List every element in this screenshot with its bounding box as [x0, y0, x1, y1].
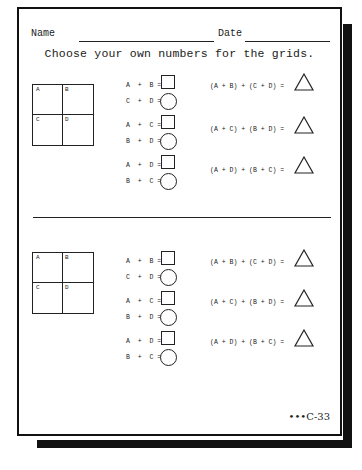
page-shadow-bottom [37, 440, 352, 448]
date-field[interactable] [245, 41, 330, 42]
circle-answer-box[interactable] [160, 173, 177, 190]
equation-total-triangle: (A + B) + (C + D) = [210, 259, 284, 266]
equation-sum-square: A + C = [126, 298, 161, 305]
date-label: Date [218, 28, 242, 39]
equation-sum-circle: B + C = [126, 178, 161, 185]
equation-sum-square: A + B = [126, 82, 161, 89]
square-answer-box[interactable] [161, 75, 175, 89]
section-divider [33, 217, 331, 218]
grid-divider-horizontal [33, 282, 93, 283]
equation-sum-square: A + D = [126, 162, 161, 169]
square-answer-box[interactable] [161, 331, 175, 345]
circle-answer-box[interactable] [160, 349, 177, 366]
triangle-answer-box[interactable] [294, 249, 314, 267]
grid-divider-vertical [62, 253, 63, 313]
equation-total-triangle: (A + B) + (C + D) = [210, 83, 284, 90]
cell-label-b: B [65, 254, 69, 261]
grid-divider-horizontal [33, 114, 93, 115]
circle-answer-box[interactable] [160, 133, 177, 150]
triangle-answer-box[interactable] [294, 329, 314, 347]
name-label: Name [31, 28, 55, 39]
equation-total-triangle: (A + D) + (B + C) = [210, 339, 284, 346]
equation-sum-square: A + B = [126, 258, 161, 265]
equation-total-triangle: (A + D) + (B + C) = [210, 167, 284, 174]
square-answer-box[interactable] [161, 155, 175, 169]
cell-label-c: C [36, 284, 40, 291]
cell-label-b: B [65, 86, 69, 93]
equation-sum-circle: B + D = [126, 314, 161, 321]
equation-total-triangle: (A + C) + (B + D) = [210, 126, 284, 133]
grid-1: A B C D [32, 84, 94, 146]
cell-label-d: D [65, 116, 69, 123]
worksheet-page: Name Date Choose your own numbers for th… [17, 7, 342, 436]
grid-divider-vertical [62, 85, 63, 145]
square-answer-box[interactable] [161, 115, 175, 129]
equation-total-triangle: (A + C) + (B + D) = [210, 299, 284, 306]
circle-answer-box[interactable] [160, 269, 177, 286]
triangle-answer-box[interactable] [294, 156, 314, 174]
square-answer-box[interactable] [161, 251, 175, 265]
triangle-answer-box[interactable] [294, 116, 314, 134]
equation-sum-circle: B + D = [126, 138, 161, 145]
equation-sum-circle: B + C = [126, 354, 161, 361]
triangle-answer-box[interactable] [294, 289, 314, 307]
cell-label-a: A [36, 86, 40, 93]
cell-label-d: D [65, 284, 69, 291]
name-field[interactable] [79, 41, 214, 42]
page-code: •••C-33 [289, 411, 330, 422]
grid-2: A B C D [32, 252, 94, 314]
equation-sum-square: A + C = [126, 122, 161, 129]
worksheet-title: Choose your own numbers for the grids. [19, 47, 340, 60]
triangle-answer-box[interactable] [294, 73, 314, 91]
circle-answer-box[interactable] [160, 93, 177, 110]
cell-label-a: A [36, 254, 40, 261]
cell-label-c: C [36, 116, 40, 123]
equation-sum-circle: C + D = [126, 274, 161, 281]
square-answer-box[interactable] [161, 291, 175, 305]
page-shadow-right [343, 24, 352, 448]
equation-sum-square: A + D = [126, 338, 161, 345]
equation-sum-circle: C + D = [126, 98, 161, 105]
circle-answer-box[interactable] [160, 309, 177, 326]
